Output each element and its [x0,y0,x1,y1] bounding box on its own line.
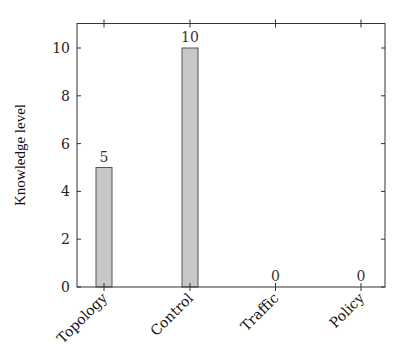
bar-topology [96,168,112,288]
x-tick-label-traffic: Traffic [237,290,281,334]
y-tick-label: 4 [61,183,70,199]
bars-group [96,48,198,287]
value-label-policy: 0 [357,268,366,284]
value-label-traffic: 0 [271,268,280,284]
y-tick-label: 0 [61,279,70,295]
y-tick-label: 10 [52,40,70,56]
bar-control [182,48,198,287]
value-label-topology: 5 [100,149,109,165]
value-label-control: 10 [181,29,199,45]
y-tick-label: 8 [61,88,70,104]
x-tick-label-control: Control [147,289,196,338]
x-tick-label-topology: Topology [54,290,111,347]
y-tick-label: 2 [61,231,70,247]
y-axis-label: Knowledge level [12,104,28,206]
y-tick-label: 6 [61,136,70,152]
plot-frame [77,24,385,288]
value-labels-group: 51000 [100,29,366,284]
bar-chart: 51000 0246810 TopologyControlTrafficPoli… [0,0,403,358]
x-tick-label-policy: Policy [326,290,367,331]
